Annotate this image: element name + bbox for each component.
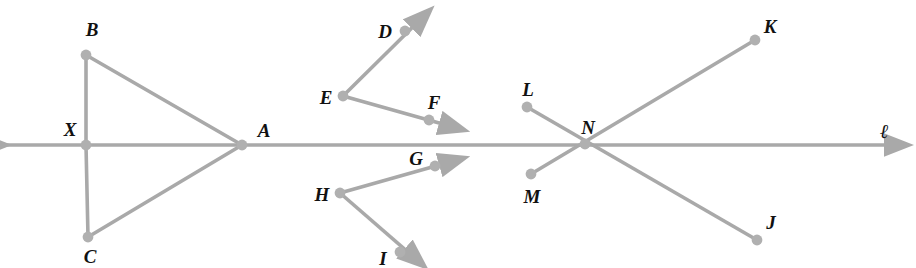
point-label-G: G xyxy=(409,149,423,168)
segment-X-C xyxy=(86,145,88,237)
line-l-label: ℓ xyxy=(880,121,888,141)
segment-B-A xyxy=(86,55,242,145)
geometry-canvas xyxy=(0,0,916,268)
point-dot-X[interactable] xyxy=(81,140,92,151)
point-label-B: B xyxy=(86,20,99,39)
point-label-H: H xyxy=(315,185,330,204)
point-dot-M[interactable] xyxy=(526,169,537,180)
point-dot-K[interactable] xyxy=(750,35,761,46)
segment-M-N-K xyxy=(531,40,755,174)
point-dot-A[interactable] xyxy=(237,140,248,151)
segment-L-N-J xyxy=(527,107,757,240)
point-dot-G[interactable] xyxy=(430,161,441,172)
point-dot-C[interactable] xyxy=(83,232,94,243)
segment-H-G-ray xyxy=(340,158,464,193)
segment-layer xyxy=(86,10,757,266)
point-label-L: L xyxy=(522,80,534,99)
point-dot-J[interactable] xyxy=(752,235,763,246)
point-dot-L[interactable] xyxy=(522,102,533,113)
point-dot-E[interactable] xyxy=(338,91,349,102)
point-label-X: X xyxy=(64,120,77,139)
point-label-D: D xyxy=(378,22,392,41)
segment-C-A xyxy=(88,145,242,237)
point-label-K: K xyxy=(764,17,777,36)
point-label-N: N xyxy=(581,118,595,137)
point-dot-I[interactable] xyxy=(395,247,406,258)
point-dot-N[interactable] xyxy=(580,139,591,150)
geometry-diagram: BXCADEFGHILNMKJ ℓ xyxy=(0,0,916,268)
point-label-M: M xyxy=(524,187,541,206)
point-dot-H[interactable] xyxy=(335,188,346,199)
point-label-E: E xyxy=(320,88,333,107)
point-dot-D[interactable] xyxy=(400,26,411,37)
point-label-F: F xyxy=(428,93,441,112)
point-label-I: I xyxy=(379,249,386,268)
point-label-A: A xyxy=(258,121,271,140)
point-label-C: C xyxy=(84,247,97,266)
point-label-J: J xyxy=(766,213,776,232)
point-dot-F[interactable] xyxy=(424,115,435,126)
point-dot-layer xyxy=(81,26,763,258)
point-dot-B[interactable] xyxy=(81,50,92,61)
segment-E-F-ray xyxy=(343,96,464,130)
